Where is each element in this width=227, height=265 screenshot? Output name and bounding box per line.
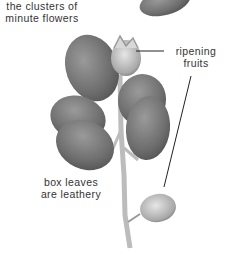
fruit-lower xyxy=(138,191,178,225)
leaf-top-partial xyxy=(137,0,194,21)
label-leaves: box leaves are leathery xyxy=(36,176,106,200)
label-flowers: the clusters of minute flowers xyxy=(2,0,82,24)
label-fruits: ripening fruits xyxy=(165,45,227,69)
box-plant-illustration xyxy=(0,0,227,265)
